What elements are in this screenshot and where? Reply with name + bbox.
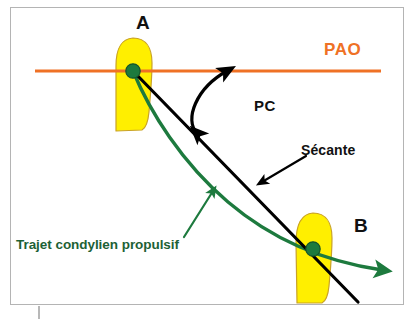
label-point-b: B <box>354 216 368 235</box>
label-pc: PC <box>254 98 276 113</box>
label-secante: Sécante <box>301 143 355 157</box>
label-point-a: A <box>136 13 150 32</box>
label-pao: PAO <box>324 41 361 58</box>
figure-root: A B PAO PC Sécante Trajet condylien prop… <box>0 0 412 319</box>
label-trajet-condylien-propulsif: Trajet condylien propulsif <box>16 238 179 252</box>
